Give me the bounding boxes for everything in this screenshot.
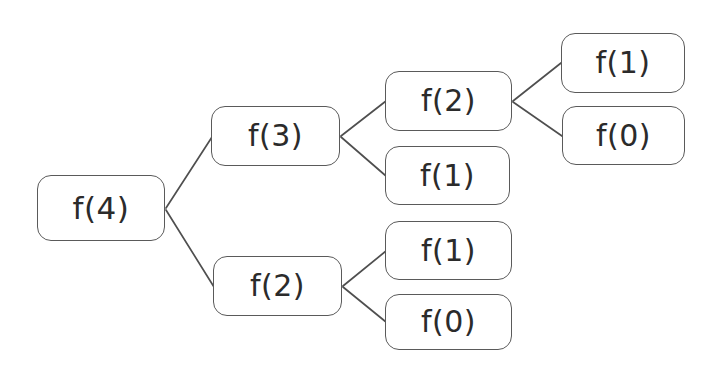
tree-node-f3[interactable]: f(3): [211, 106, 340, 166]
tree-node-f1[interactable]: f(1): [385, 146, 510, 205]
tree-edge: [343, 251, 386, 286]
tree-node-label: f(1): [421, 236, 476, 266]
tree-node-label: f(0): [421, 307, 476, 337]
tree-edge: [343, 287, 386, 322]
tree-node-f0[interactable]: f(0): [385, 294, 512, 350]
tree-node-label: f(3): [248, 121, 303, 151]
tree-node-label: f(2): [421, 86, 476, 116]
tree-edge: [166, 137, 212, 208]
tree-node-label: f(1): [420, 161, 475, 191]
tree-node-f2[interactable]: f(2): [213, 256, 342, 316]
tree-node-f1[interactable]: f(1): [561, 33, 685, 93]
recursion-tree-diagram: f(4)f(3)f(2)f(1)f(0)f(1)f(2)f(1)f(0): [0, 0, 720, 379]
tree-edge: [513, 102, 562, 136]
tree-node-f1[interactable]: f(1): [385, 221, 512, 280]
tree-node-f4[interactable]: f(4): [37, 175, 165, 241]
tree-edge: [341, 101, 386, 136]
tree-edge: [341, 137, 386, 176]
tree-edge: [166, 210, 214, 287]
tree-node-label: f(0): [596, 121, 651, 151]
tree-node-f0[interactable]: f(0): [562, 106, 685, 165]
tree-node-f2[interactable]: f(2): [385, 71, 512, 131]
tree-node-label: f(2): [250, 271, 305, 301]
tree-node-label: f(4): [73, 193, 130, 224]
tree-edge: [513, 63, 561, 101]
tree-node-label: f(1): [595, 48, 650, 78]
